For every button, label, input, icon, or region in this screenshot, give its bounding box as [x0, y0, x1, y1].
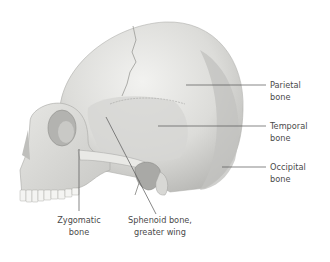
label-temporal-bone: Temporal bone [270, 120, 308, 144]
label-parietal-bone: Parietal bone [270, 79, 301, 103]
label-line: Sphenoid bone, [120, 214, 200, 226]
label-line: Occipital [270, 161, 306, 173]
label-line: bone [48, 226, 110, 238]
label-line: Zygomatic [48, 214, 110, 226]
skull-diagram: Parietal bone Temporal bone Occipital bo… [0, 0, 330, 262]
label-sphenoid-greater-wing: Sphenoid bone, greater wing [120, 214, 200, 238]
label-line: Parietal [270, 79, 301, 91]
label-line: bone [270, 132, 308, 144]
label-line: Temporal [270, 120, 308, 132]
label-line: bone [270, 91, 301, 103]
label-zygomatic-bone: Zygomatic bone [48, 214, 110, 238]
label-line: bone [270, 173, 306, 185]
label-occipital-bone: Occipital bone [270, 161, 306, 185]
label-line: greater wing [120, 226, 200, 238]
